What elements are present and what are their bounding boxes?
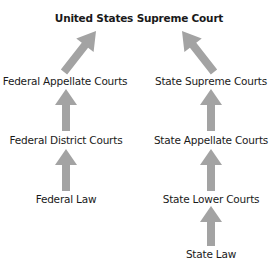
arrows-layer (0, 0, 270, 263)
arrow-state-supreme-to-supreme (173, 24, 222, 79)
node-us-supreme-court: United States Supreme Court (55, 12, 223, 24)
arrow-federal-appellate-to-supreme (55, 24, 104, 79)
arrow-federal-district-to-appellate (55, 89, 77, 131)
node-state-supreme-courts: State Supreme Courts (155, 75, 267, 87)
node-federal-district-courts: Federal District Courts (10, 134, 123, 146)
node-state-lower-courts: State Lower Courts (163, 193, 260, 205)
node-federal-appellate-courts: Federal Appellate Courts (3, 75, 128, 87)
arrow-state-lower-to-appellate (200, 149, 222, 191)
node-state-appellate-courts: State Appellate Courts (154, 134, 268, 146)
node-federal-law: Federal Law (36, 193, 97, 205)
arrow-federal-law-to-district (55, 149, 77, 191)
arrow-state-appellate-to-supreme (200, 89, 222, 131)
node-state-law: State Law (186, 248, 236, 260)
arrow-state-law-to-lower (200, 206, 222, 246)
